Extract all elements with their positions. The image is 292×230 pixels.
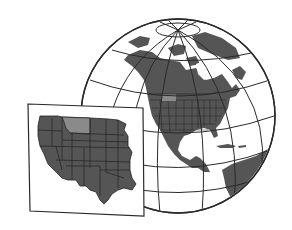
inset-map-panel	[28, 104, 144, 216]
globe-illustration	[0, 0, 292, 230]
illustration-canvas: North America globe with western US inse…	[0, 0, 292, 230]
montana-highlight-globe	[162, 94, 176, 101]
